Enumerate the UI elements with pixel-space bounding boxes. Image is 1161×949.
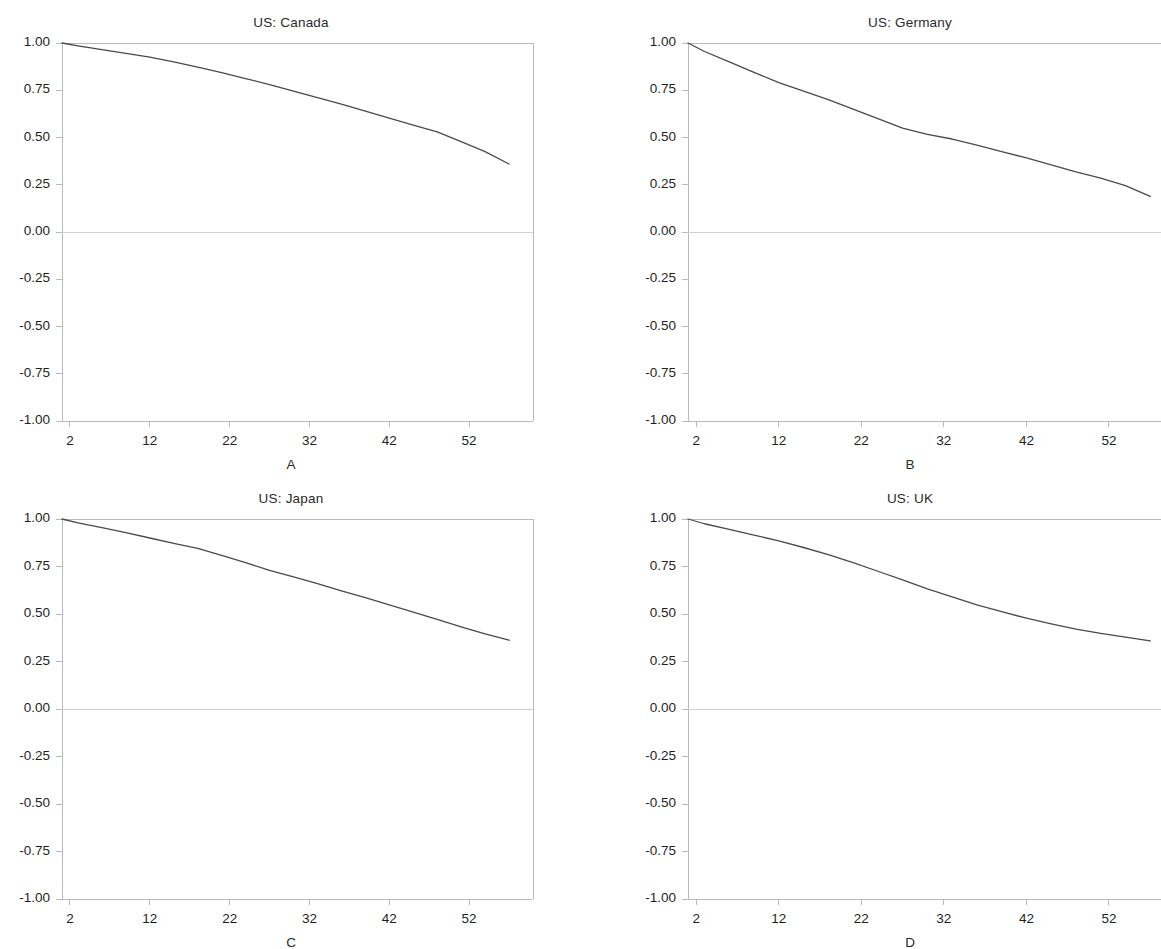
- panel-title-C: US: Japan: [91, 491, 491, 506]
- ytick-label-B-1: 0.75: [598, 81, 676, 96]
- ytick-label-D-1: 0.75: [598, 558, 676, 573]
- data-series-A: [62, 43, 509, 164]
- ytick-label-B-5: -0.25: [598, 270, 676, 285]
- ytick-label-B-3: 0.25: [598, 176, 676, 191]
- ytick-label-A-8: -1.00: [0, 412, 50, 427]
- xaxis-label-A: A: [141, 457, 441, 472]
- data-series-C: [62, 519, 509, 640]
- ytick-label-B-4: 0.00: [598, 223, 676, 238]
- ytick-label-B-0: 1.00: [598, 34, 676, 49]
- plot-area-A: [0, 0, 1161, 949]
- ytick-label-C-6: -0.50: [0, 795, 50, 810]
- xtick-label-D-0: 2: [666, 911, 726, 926]
- ytick-label-D-7: -0.75: [598, 843, 676, 858]
- xtick-label-B-4: 42: [996, 433, 1056, 448]
- xtick-label-C-2: 22: [200, 911, 260, 926]
- ytick-label-A-4: 0.00: [0, 223, 50, 238]
- data-series-B: [688, 43, 1150, 196]
- data-series-D: [688, 519, 1150, 641]
- xtick-label-A-1: 12: [120, 433, 180, 448]
- ytick-label-B-7: -0.75: [598, 365, 676, 380]
- panel-title-D: US: UK: [710, 491, 1110, 506]
- ytick-label-A-2: 0.50: [0, 129, 50, 144]
- panel-title-A: US: Canada: [91, 15, 491, 30]
- xtick-label-D-1: 12: [749, 911, 809, 926]
- xtick-label-D-5: 52: [1079, 911, 1139, 926]
- ytick-label-B-2: 0.50: [598, 129, 676, 144]
- ytick-label-C-8: -1.00: [0, 890, 50, 905]
- ytick-label-C-4: 0.00: [0, 700, 50, 715]
- ytick-label-C-3: 0.25: [0, 653, 50, 668]
- ytick-label-D-0: 1.00: [598, 510, 676, 525]
- xtick-label-B-2: 22: [831, 433, 891, 448]
- ytick-label-A-1: 0.75: [0, 81, 50, 96]
- xtick-label-B-0: 2: [666, 433, 726, 448]
- ytick-label-C-7: -0.75: [0, 843, 50, 858]
- xtick-label-D-2: 22: [831, 911, 891, 926]
- ytick-label-C-2: 0.50: [0, 605, 50, 620]
- xtick-label-C-5: 52: [439, 911, 499, 926]
- xaxis-label-D: D: [760, 935, 1060, 949]
- plot-area-C: [0, 0, 1161, 949]
- ytick-label-A-3: 0.25: [0, 176, 50, 191]
- xtick-label-C-1: 12: [120, 911, 180, 926]
- xtick-label-B-5: 52: [1079, 433, 1139, 448]
- xtick-label-A-2: 22: [200, 433, 260, 448]
- xtick-label-D-4: 42: [996, 911, 1056, 926]
- ytick-label-A-7: -0.75: [0, 365, 50, 380]
- xtick-label-A-3: 32: [279, 433, 339, 448]
- panel-title-B: US: Germany: [710, 15, 1110, 30]
- ytick-label-A-5: -0.25: [0, 270, 50, 285]
- xtick-label-B-1: 12: [749, 433, 809, 448]
- ytick-label-D-2: 0.50: [598, 605, 676, 620]
- ytick-label-B-8: -1.00: [598, 412, 676, 427]
- ytick-label-A-0: 1.00: [0, 34, 50, 49]
- xtick-label-C-3: 32: [279, 911, 339, 926]
- xtick-label-B-3: 32: [914, 433, 974, 448]
- plot-area-B: [0, 0, 1161, 949]
- ytick-label-D-4: 0.00: [598, 700, 676, 715]
- ytick-label-C-5: -0.25: [0, 748, 50, 763]
- ytick-label-A-6: -0.50: [0, 318, 50, 333]
- ytick-label-B-6: -0.50: [598, 318, 676, 333]
- xtick-label-C-0: 2: [40, 911, 100, 926]
- ytick-label-C-0: 1.00: [0, 510, 50, 525]
- xtick-label-D-3: 32: [914, 911, 974, 926]
- ytick-label-D-6: -0.50: [598, 795, 676, 810]
- xaxis-label-C: C: [141, 935, 441, 949]
- xtick-label-A-5: 52: [439, 433, 499, 448]
- ytick-label-D-5: -0.25: [598, 748, 676, 763]
- xtick-label-A-4: 42: [359, 433, 419, 448]
- xtick-label-A-0: 2: [40, 433, 100, 448]
- xaxis-label-B: B: [760, 457, 1060, 472]
- xtick-label-C-4: 42: [359, 911, 419, 926]
- plot-area-D: [0, 0, 1161, 949]
- ytick-label-D-8: -1.00: [598, 890, 676, 905]
- ytick-label-C-1: 0.75: [0, 558, 50, 573]
- ytick-label-D-3: 0.25: [598, 653, 676, 668]
